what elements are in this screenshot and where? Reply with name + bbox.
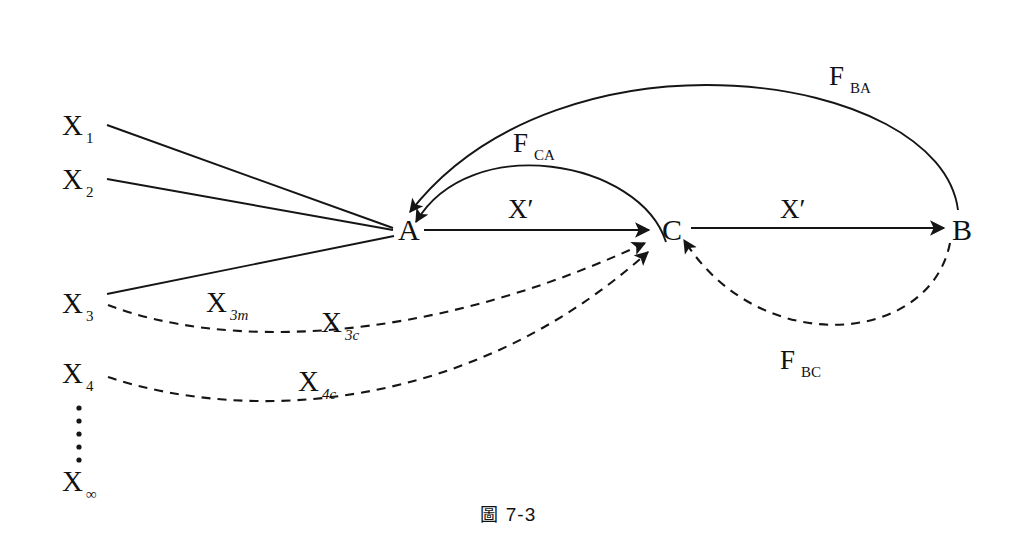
variable-x2[interactable]: X 2 <box>62 163 94 200</box>
edge-label-x4c: X 4c <box>298 365 337 402</box>
node-c-label[interactable]: C <box>662 213 682 246</box>
causal-diagram: A C B X 1 X 2 X 3 X 4 X ∞ X 3m <box>0 0 1016 555</box>
edge-label-f-bc-subscript: BC <box>801 364 821 380</box>
variable-xn-base: X <box>62 465 83 497</box>
edge-label-f-ba-base: F <box>829 61 844 91</box>
variable-x3[interactable]: X 3 <box>62 287 94 324</box>
variable-x4[interactable]: X 4 <box>62 357 94 394</box>
edge-x3-to-a[interactable] <box>107 236 394 294</box>
edge-label-x3c-subscript: 3c <box>344 327 360 343</box>
figure-caption: 圖7-3 <box>0 500 1016 526</box>
edge-label-x-prime-ac: X′ <box>508 194 533 224</box>
edge-x3-to-c[interactable] <box>108 243 645 332</box>
node-a-label[interactable]: A <box>398 213 420 246</box>
variable-x1-base: X <box>62 109 83 141</box>
edge-label-x3c: X 3c <box>321 306 360 343</box>
edge-b-to-c[interactable] <box>684 240 950 325</box>
vertical-ellipsis <box>76 405 81 462</box>
variable-x2-subscript: 2 <box>86 184 94 200</box>
edge-b-to-a[interactable] <box>410 85 958 212</box>
edge-label-f-ba: F BA <box>829 61 871 96</box>
variable-xn[interactable]: X ∞ <box>62 465 97 502</box>
variable-x1-subscript: 1 <box>86 130 94 146</box>
variable-x4-subscript: 4 <box>86 378 94 394</box>
variable-x1[interactable]: X 1 <box>62 109 94 146</box>
edge-label-x3m-base: X <box>206 286 227 318</box>
variable-x2-base: X <box>62 163 83 195</box>
edge-label-f-ca: F CA <box>513 128 555 163</box>
edge-label-f-ca-subscript: CA <box>534 147 555 163</box>
variable-x4-base: X <box>62 357 83 389</box>
edge-label-x3c-base: X <box>321 306 342 338</box>
variable-x3-base: X <box>62 287 83 319</box>
node-b-label[interactable]: B <box>952 213 972 246</box>
variable-x3-subscript: 3 <box>86 308 94 324</box>
figure-canvas: A C B X 1 X 2 X 3 X 4 X ∞ X 3m <box>0 0 1016 555</box>
edge-label-x-prime-cb: X′ <box>780 194 805 224</box>
edge-label-f-ba-subscript: BA <box>850 80 871 96</box>
edge-label-f-ca-base: F <box>513 128 528 158</box>
edge-x2-to-a[interactable] <box>107 179 393 230</box>
edge-label-f-bc: F BC <box>780 345 821 380</box>
edge-x1-to-a[interactable] <box>107 125 393 228</box>
edge-label-f-bc-base: F <box>780 345 795 375</box>
edge-label-x3m: X 3m <box>206 286 249 323</box>
figure-caption-symbol: 圖 <box>480 504 499 525</box>
edge-label-x3m-subscript: 3m <box>229 307 249 323</box>
edge-label-x4c-base: X <box>298 365 319 397</box>
edge-label-x4c-subscript: 4c <box>322 386 337 402</box>
figure-caption-number: 7-3 <box>506 504 536 525</box>
